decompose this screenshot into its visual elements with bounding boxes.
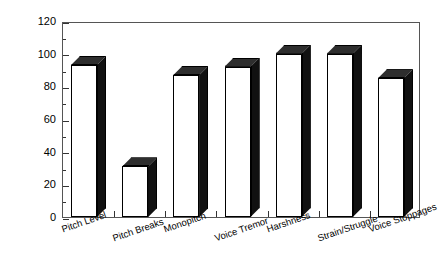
x-axis-tick <box>165 211 166 217</box>
y-axis-tick <box>63 88 69 89</box>
bar[interactable] <box>173 66 208 217</box>
bar-front-face <box>71 65 97 217</box>
y-axis-tick <box>63 186 69 187</box>
bar-side-face <box>302 45 311 217</box>
y-axis-minor-tick <box>63 137 66 138</box>
x-axis-tick <box>114 211 115 217</box>
y-axis-tick-label: 80 <box>22 81 56 92</box>
bar-side-face <box>251 58 260 217</box>
bar-front-face <box>378 78 404 217</box>
bar[interactable] <box>122 157 157 217</box>
plot-area <box>62 22 420 218</box>
bar-side-face <box>148 157 157 217</box>
y-axis-tick-label: 0 <box>22 212 56 223</box>
y-axis-minor-tick <box>63 104 66 105</box>
y-axis-minor-tick <box>63 39 66 40</box>
x-axis-tick <box>268 211 269 217</box>
bar-side-face <box>404 69 413 217</box>
y-axis-tick-label: 60 <box>22 114 56 125</box>
y-axis-minor-tick <box>63 72 66 73</box>
y-axis-tick <box>63 55 69 56</box>
bar-front-face <box>327 54 353 217</box>
bar-front-face <box>173 75 199 217</box>
bar[interactable] <box>276 45 311 217</box>
y-axis-tick-label: 120 <box>22 16 56 27</box>
y-axis-tick-labels: 020406080100120 <box>22 0 56 268</box>
bar-side-face <box>199 66 208 217</box>
y-axis-tick-label: 100 <box>22 49 56 60</box>
y-axis-tick-label: 40 <box>22 147 56 158</box>
x-axis-category-label: Voice Tremor <box>213 215 270 244</box>
bar[interactable] <box>327 45 362 217</box>
bar[interactable] <box>378 69 413 217</box>
bar-front-face <box>122 166 148 217</box>
y-axis-tick <box>63 153 69 154</box>
bar-front-face <box>276 54 302 217</box>
bar-side-face <box>353 45 362 217</box>
y-axis-tick-label: 20 <box>22 179 56 190</box>
y-axis-tick <box>63 23 69 24</box>
bar-side-face <box>97 56 106 217</box>
bar[interactable] <box>71 56 106 217</box>
y-axis-minor-tick <box>63 170 66 171</box>
x-axis-category-label: Pitch Breaks <box>111 216 165 244</box>
y-axis-minor-tick <box>63 202 66 203</box>
x-axis-tick <box>319 211 320 217</box>
bar[interactable] <box>225 58 260 217</box>
y-axis-tick <box>63 219 69 220</box>
y-axis-tick <box>63 121 69 122</box>
bar-front-face <box>225 67 251 217</box>
x-axis-tick <box>216 211 217 217</box>
